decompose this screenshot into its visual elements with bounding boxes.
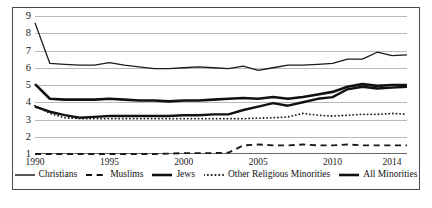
series-layer <box>35 16 407 154</box>
chart-legend: ChristiansMuslimsJewsOther Religious Min… <box>13 166 419 184</box>
legend-item-all-minorities[interactable]: All Minorities <box>339 170 417 180</box>
y-tick-label: 2 <box>26 132 31 143</box>
legend-item-jews[interactable]: Jews <box>152 170 194 180</box>
y-tick-label: 9 <box>26 11 31 22</box>
legend-item-other-religious-minorities[interactable]: Other Religious Minorities <box>204 170 330 180</box>
legend-item-muslims[interactable]: Muslims <box>86 170 143 180</box>
legend-item-christians[interactable]: Christians <box>15 170 78 180</box>
legend-swatch-dash-dot-icon <box>86 171 106 179</box>
chart-figure: 123456789 199019952000200520102014 Chris… <box>12 7 420 190</box>
y-tick-label: 3 <box>26 114 31 125</box>
series-line-christians <box>35 23 407 70</box>
series-line-all-minorities <box>35 87 407 118</box>
plot-area: 123456789 199019952000200520102014 <box>35 16 407 154</box>
legend-label: All Minorities <box>363 170 417 180</box>
legend-swatch-thin-solid-icon <box>15 171 35 179</box>
legend-swatch-thick-solid-icon <box>339 171 359 179</box>
y-tick-label: 4 <box>26 97 31 108</box>
series-line-jews <box>35 84 407 101</box>
legend-label: Christians <box>39 170 78 180</box>
y-tick-label: 8 <box>26 28 31 39</box>
y-tick-label: 6 <box>26 63 31 74</box>
legend-label: Muslims <box>110 170 143 180</box>
legend-swatch-thick-solid-icon <box>152 171 172 179</box>
y-tick-label: 5 <box>26 80 31 91</box>
y-tick-label: 7 <box>26 45 31 56</box>
legend-label: Other Religious Minorities <box>228 170 330 180</box>
legend-label: Jews <box>176 170 194 180</box>
legend-swatch-dotted-icon <box>204 171 224 179</box>
series-line-muslims <box>35 145 407 154</box>
